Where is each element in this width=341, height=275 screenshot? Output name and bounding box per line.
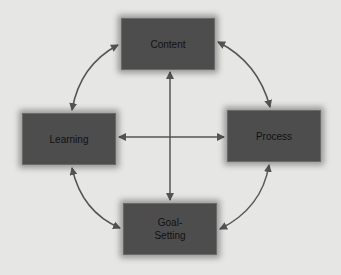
- arrow-content-learning: [72, 45, 118, 110]
- arrow-process-goal: [220, 165, 269, 229]
- node-process: Process: [227, 110, 321, 162]
- arrow-learning-goal: [72, 168, 120, 228]
- node-label: Content: [150, 38, 185, 51]
- arrow-content-process: [218, 42, 270, 107]
- node-label-line1: Goal-: [158, 216, 182, 229]
- node-label: Learning: [50, 133, 89, 146]
- node-learning: Learning: [22, 113, 116, 165]
- node-content: Content: [121, 18, 215, 70]
- cycle-diagram: Content Learning Process Goal- Setting: [0, 0, 341, 275]
- node-goal-setting: Goal- Setting: [123, 203, 217, 255]
- node-label-line2: Setting: [154, 229, 185, 242]
- node-label: Process: [256, 130, 292, 143]
